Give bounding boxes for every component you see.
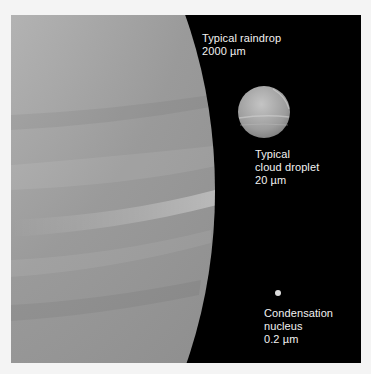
raindrop-label-size: 2000 µm (202, 45, 281, 58)
condensation-nucleus-dot (275, 290, 281, 296)
raindrop-label: Typical raindrop 2000 µm (202, 32, 281, 58)
cloud-droplet-shape (238, 86, 290, 138)
figure-frame: Typical raindrop 2000 µm Typical cloud d… (11, 15, 361, 363)
cloud-droplet-label-line1: Typical (255, 148, 319, 161)
nucleus-label-line1: Condensation (264, 307, 333, 320)
cloud-droplet-label-line2: cloud droplet (255, 161, 319, 174)
bottom-margin (0, 363, 371, 374)
nucleus-label-line2: nucleus (264, 320, 333, 333)
condensation-nucleus-label: Condensation nucleus 0.2 µm (264, 307, 333, 346)
raindrop-shape (11, 15, 221, 363)
nucleus-label-size: 0.2 µm (264, 333, 333, 346)
cloud-droplet-label: Typical cloud droplet 20 µm (255, 148, 319, 187)
raindrop-label-name: Typical raindrop (202, 32, 281, 45)
cloud-droplet-label-size: 20 µm (255, 174, 319, 187)
